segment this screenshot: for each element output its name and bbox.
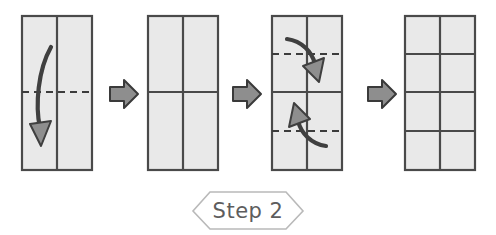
step-banner: Step 2: [193, 192, 303, 229]
panel-2-half-folded: [148, 16, 218, 170]
step-label: Step 2: [213, 199, 284, 223]
step-arrow-3: [368, 80, 396, 108]
panel-3-fold-quarters: [272, 16, 342, 170]
panel-4-result-grid: [405, 16, 475, 170]
origami-step-diagram: Step 2: [0, 0, 496, 235]
panel-1-fold-in-half-down: [22, 16, 92, 170]
step-arrow-1: [110, 80, 138, 108]
step-arrow-2: [233, 80, 261, 108]
diagram-canvas: Step 2: [0, 0, 496, 235]
